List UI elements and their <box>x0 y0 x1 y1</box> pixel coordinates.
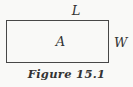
rectangle-shape: A <box>6 20 109 63</box>
width-label: W <box>114 36 127 49</box>
figure-15-1: L A W Figure 15.1 <box>0 0 133 87</box>
figure-caption: Figure 15.1 <box>0 69 133 81</box>
area-label: A <box>56 35 65 48</box>
length-label: L <box>0 4 133 17</box>
